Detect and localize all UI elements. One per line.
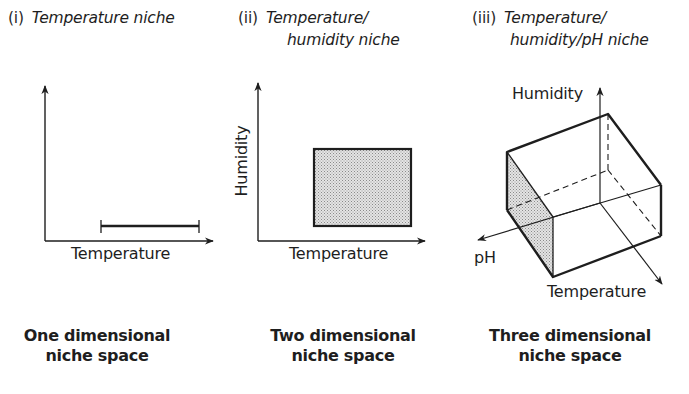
panel-2-caption-line-1: Two dimensional (258, 326, 428, 346)
panel-2-title-line-2-wrap: humidity niche (287, 30, 400, 50)
panel-2-niche-area (314, 149, 411, 226)
panel-3-caption: Three dimensional niche space (480, 326, 660, 366)
panel-1-numeral: (i) (8, 9, 24, 27)
panel-3-ph-label: pH (474, 248, 496, 267)
panel-3-title: (iii)Temperature/ (472, 8, 606, 28)
panel-3-graphic (478, 88, 662, 284)
panel-3-temperature-label: Temperature (547, 282, 646, 301)
panel-2-title-line-1: Temperature/ (266, 9, 368, 27)
panel-1-title-line-1: Temperature niche (32, 9, 175, 27)
panel-3-title-line-2: humidity/pH niche (510, 31, 649, 49)
panel-2-y-axis-label: Humidity (232, 127, 251, 197)
panel-2-graphic (258, 83, 425, 241)
panel-3-caption-line-2: niche space (480, 346, 660, 366)
panel-2-x-axis-label: Temperature (289, 244, 388, 263)
panel-3-caption-line-1: Three dimensional (480, 326, 660, 346)
panel-2-title: (ii)Temperature/ (238, 8, 368, 28)
panel-2-caption-line-2: niche space (258, 346, 428, 366)
panel-2-title-line-2: humidity niche (287, 31, 400, 49)
panel-1-caption-line-1: One dimensional (12, 326, 182, 346)
panel-1-x-axis-label: Temperature (71, 244, 170, 263)
panel-1-niche-range-bar (101, 220, 199, 233)
panel-3-title-line-1: Temperature/ (504, 9, 606, 27)
panel-1-graphic (45, 86, 213, 241)
panel-2-caption: Two dimensional niche space (258, 326, 428, 366)
panel-3-title-line-2-wrap: humidity/pH niche (510, 30, 649, 50)
panel-3-temperature-axis (600, 203, 662, 284)
panel-2-numeral: (ii) (238, 9, 258, 27)
panel-3-numeral: (iii) (472, 9, 496, 27)
panel-3-humidity-label: Humidity (512, 84, 583, 103)
panel-3-shaded-face (507, 152, 553, 277)
panel-1-caption: One dimensional niche space (12, 326, 182, 366)
panel-1-title: (i)Temperature niche (8, 8, 175, 28)
panel-1-caption-line-2: niche space (12, 346, 182, 366)
